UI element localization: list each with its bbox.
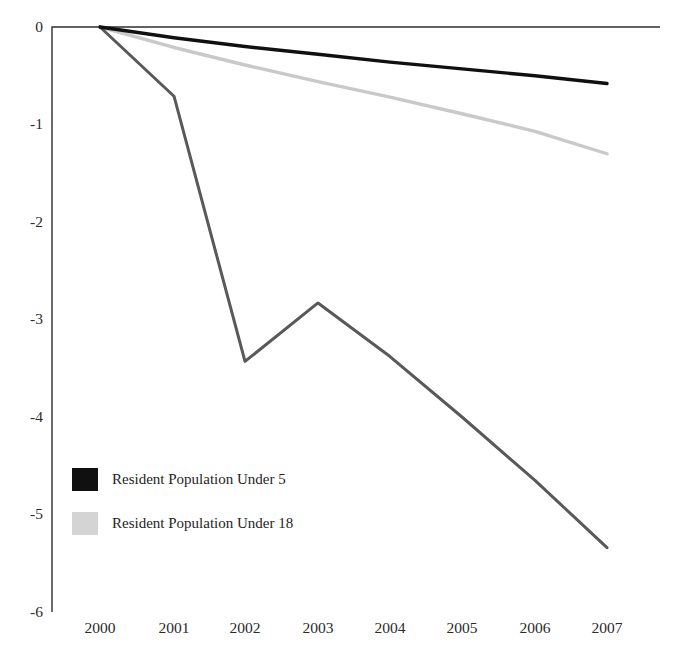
legend-swatch — [72, 512, 98, 535]
legend-item: Resident Population Under 18 — [72, 512, 293, 535]
y-tick-label: -6 — [30, 603, 43, 620]
line-chart: 0-1-2-3-4-5-6 20002001200220032004200520… — [0, 0, 673, 656]
chart-canvas: 0-1-2-3-4-5-6 20002001200220032004200520… — [0, 0, 673, 656]
y-tick-label: -3 — [30, 310, 43, 327]
y-tick-label: 0 — [35, 18, 43, 35]
series-layer — [100, 27, 607, 548]
x-tick-label: 2000 — [85, 619, 116, 636]
legend-swatch — [72, 468, 98, 491]
legend-label: Resident Population Under 5 — [112, 471, 286, 487]
series-line — [100, 27, 607, 84]
series-line — [100, 27, 607, 154]
legend-item: Resident Population Under 5 — [72, 468, 286, 491]
x-tick-label: 2006 — [520, 619, 551, 636]
x-tick-label: 2005 — [447, 619, 478, 636]
x-axis-tick-labels: 20002001200220032004200520062007 — [85, 619, 623, 636]
x-tick-label: 2003 — [303, 619, 334, 636]
x-tick-label: 2007 — [592, 619, 623, 636]
y-tick-label: -2 — [30, 213, 43, 230]
series-line — [100, 27, 607, 548]
y-tick-label: -1 — [30, 115, 43, 132]
y-tick-label: -5 — [30, 505, 43, 522]
chart-legend: Resident Population Under 5Resident Popu… — [72, 468, 293, 535]
y-tick-label: -4 — [30, 408, 43, 425]
x-tick-label: 2001 — [159, 619, 190, 636]
legend-label: Resident Population Under 18 — [112, 515, 293, 531]
x-tick-label: 2004 — [375, 619, 406, 636]
x-tick-label: 2002 — [230, 619, 261, 636]
y-axis-tick-labels: 0-1-2-3-4-5-6 — [30, 18, 43, 620]
